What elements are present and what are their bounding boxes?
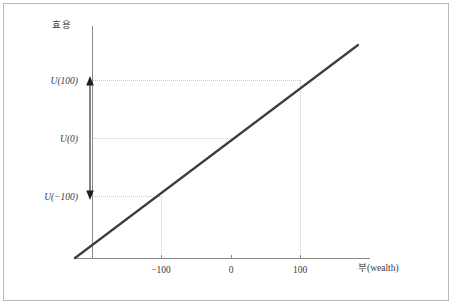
x-tick-label-minus100: −100 (131, 265, 191, 275)
x-axis-title: 부(wealth) (358, 260, 399, 274)
y-tick-label-u100: U(100) (8, 76, 78, 86)
y-tick-label-u0: U(0) (8, 134, 78, 144)
utility-function-figure: U(100) U(0) U(−100) −100 0 100 효용 부(weal… (0, 0, 452, 304)
utility-span-arrow (82, 72, 98, 204)
x-tick-label-100: 100 (270, 265, 330, 275)
y-axis-title: 효용 (52, 17, 72, 31)
utility-line-series (0, 0, 452, 304)
y-tick-label-u-minus100: U(−100) (2, 192, 78, 202)
x-tick-label-0: 0 (201, 265, 261, 275)
plot-area: U(100) U(0) U(−100) −100 0 100 효용 부(weal… (0, 0, 452, 304)
